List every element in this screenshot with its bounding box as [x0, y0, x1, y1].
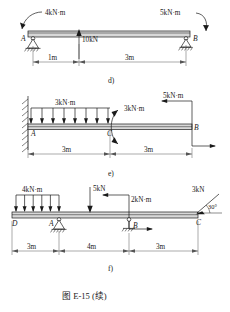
dimension-label-e-2: 3m — [144, 146, 154, 154]
support-a-d — [25, 37, 41, 52]
dimension-line-f — [12, 221, 198, 255]
load-label-moment-b-f: 2kN·m — [131, 196, 152, 204]
support-fixed-wall-e — [22, 96, 28, 152]
load-label-moment-left-d: 4kN·m — [45, 9, 66, 17]
figure-root: 4kN·m 5kN·m 10kN A — [0, 0, 230, 312]
sublabel-f: f) — [108, 264, 114, 273]
point-label-a-e: A — [30, 129, 36, 138]
moment-5knm-d — [196, 13, 209, 31]
load-label-moment-right-e: 5kN·m — [163, 92, 184, 100]
dimension-label-f-1: 3m — [27, 243, 37, 251]
dimension-line-e — [28, 130, 192, 158]
moment-5knm-e — [161, 99, 216, 148]
angle-label-30deg-f: 30° — [208, 203, 217, 210]
dimension-label-d-1: 1m — [48, 54, 58, 62]
load-label-udl-e: 3kN·m — [55, 99, 76, 107]
figure-caption: 图 E-15 (续) — [62, 290, 107, 301]
moment-4knm-d — [20, 12, 42, 29]
point-label-a-d: A — [20, 34, 26, 43]
diagram-e: 3kN·m 3kN·m 5kN·m A C B — [0, 88, 230, 181]
support-b-d — [179, 37, 193, 51]
load-label-3kn-f: 3kN — [192, 186, 205, 194]
load-label-moment-mid-e: 3kN·m — [124, 105, 145, 113]
point-label-b-d: B — [193, 34, 198, 43]
load-label-10kn-d: 10kN — [82, 36, 99, 44]
load-label-moment-right-d: 5kN·m — [160, 9, 181, 17]
distributed-load-4knm-f — [14, 195, 61, 212]
point-label-a-f: A — [48, 219, 54, 228]
beam-f — [12, 212, 198, 218]
diagram-d: 4kN·m 5kN·m 10kN A — [0, 0, 230, 88]
dimension-label-f-3: 3m — [156, 243, 166, 251]
load-label-5kn-f: 5kN — [93, 185, 106, 193]
beam-d — [28, 31, 190, 37]
force-5kn-f — [87, 187, 92, 213]
distributed-load-3knm-e — [29, 108, 110, 124]
diagram-f: 4kN·m 5kN 2kN·m 3kN 30° — [0, 181, 230, 312]
point-label-c-f: C — [196, 218, 202, 227]
sublabel-d: d) — [108, 76, 115, 85]
dimension-label-d-2: 3m — [125, 54, 135, 62]
load-label-udl-f: 4kN·m — [22, 186, 43, 194]
point-label-b-e: B — [194, 123, 199, 132]
dimension-label-f-2: 4m — [87, 243, 97, 251]
dimension-label-e-1: 3m — [62, 146, 72, 154]
sublabel-e: e) — [108, 169, 114, 178]
point-label-b-f: B — [133, 221, 138, 230]
